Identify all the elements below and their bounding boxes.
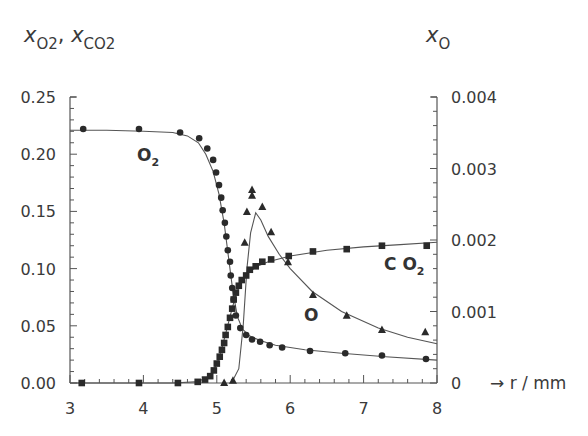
curve-o: [232, 213, 438, 383]
data-point-o2: [222, 220, 229, 227]
data-point-o: [258, 203, 266, 211]
data-point-co2: [78, 380, 85, 387]
data-point-o2: [204, 145, 211, 152]
data-point-co2: [379, 242, 386, 249]
data-point-co2: [243, 272, 250, 279]
data-point-co2: [236, 282, 243, 289]
data-point-co2: [230, 296, 237, 303]
data-point-o2: [379, 352, 386, 359]
data-point-o2: [257, 339, 264, 346]
data-point-co2: [219, 347, 226, 354]
y-right-tick-label: 0.004: [451, 88, 497, 107]
y-left-axis-title: xO2, xCO2: [23, 23, 115, 53]
y-left-tick-label: 0.20: [20, 145, 56, 164]
chart-canvas: 3456780.000.050.100.150.200.2500.0010.00…: [0, 0, 588, 436]
x-tick-label: 5: [212, 399, 222, 418]
data-point-o: [220, 379, 228, 387]
data-point-o2: [223, 233, 230, 240]
data-point-co2: [343, 246, 350, 253]
x-tick-label: 3: [65, 399, 75, 418]
data-point-co2: [225, 324, 232, 331]
series-label-o2: O2: [137, 145, 159, 169]
x-axis-title: → r / mm: [490, 373, 566, 393]
data-point-o2: [227, 272, 234, 279]
data-point-co2: [229, 305, 236, 312]
data-point-co2: [423, 242, 430, 249]
fitted-curves: [70, 130, 437, 383]
data-point-co2: [221, 340, 228, 347]
data-point-co2: [227, 314, 234, 321]
x-tick-label: 8: [432, 399, 442, 418]
data-point-co2: [252, 263, 259, 270]
data-point-co2: [233, 289, 240, 296]
data-point-co2: [136, 380, 143, 387]
y-right-tick-label: 0.003: [451, 160, 497, 179]
data-point-co2: [175, 380, 182, 387]
y-left-tick-label: 0.15: [20, 202, 56, 221]
y-left-tick-label: 0.05: [20, 317, 56, 336]
data-point-o2: [279, 344, 286, 351]
data-point-o2: [233, 312, 240, 319]
y-left-tick-label: 0.25: [20, 88, 56, 107]
data-point-o2: [136, 126, 143, 133]
data-point-o2: [227, 258, 234, 265]
data-point-o2: [237, 325, 244, 332]
axes: 3456780.000.050.100.150.200.2500.0010.00…: [20, 88, 496, 418]
data-point-co2: [194, 379, 201, 386]
data-point-o: [267, 228, 275, 236]
data-point-co2: [247, 266, 254, 273]
x-tick-label: 7: [359, 399, 369, 418]
data-point-o2: [249, 336, 256, 343]
series-label-o: O: [304, 305, 318, 325]
data-point-co2: [222, 332, 229, 339]
data-point-co2: [211, 367, 218, 374]
data-point-o2: [225, 247, 232, 254]
data-point-o2: [210, 157, 217, 164]
x-tick-label: 6: [285, 399, 295, 418]
y-right-tick-label: 0.001: [451, 303, 497, 322]
data-point-o: [243, 208, 251, 216]
y-left-tick-label: 0.00: [20, 374, 56, 393]
y-right-tick-label: 0.002: [451, 231, 497, 250]
data-point-co2: [259, 258, 266, 265]
data-point-o2: [243, 332, 250, 339]
data-point-o2: [423, 356, 430, 363]
data-point-o2: [307, 348, 314, 355]
series-label-co2: C O2: [384, 254, 425, 278]
y-right-axis-title: xO: [425, 23, 450, 53]
data-point-o2: [213, 169, 220, 176]
data-point-o2: [266, 342, 273, 349]
y-left-tick-label: 0.10: [20, 260, 56, 279]
x-tick-label: 4: [138, 399, 148, 418]
data-point-co2: [207, 373, 214, 380]
y-right-tick-label: 0: [451, 374, 461, 393]
data-point-o: [421, 328, 429, 336]
data-point-o2: [218, 194, 225, 201]
data-point-o2: [219, 207, 226, 214]
data-point-co2: [216, 353, 223, 360]
data-point-co2: [285, 253, 292, 260]
data-point-o: [241, 238, 249, 246]
data-markers: [78, 126, 430, 387]
data-point-o2: [216, 182, 223, 189]
data-point-o2: [80, 126, 87, 133]
data-point-co2: [268, 256, 275, 263]
data-point-co2: [310, 248, 317, 255]
data-point-o2: [342, 350, 349, 357]
data-point-o2: [196, 135, 203, 142]
data-point-co2: [214, 360, 221, 367]
data-point-o2: [177, 129, 184, 136]
data-point-o: [378, 326, 386, 334]
data-point-o: [229, 376, 237, 384]
